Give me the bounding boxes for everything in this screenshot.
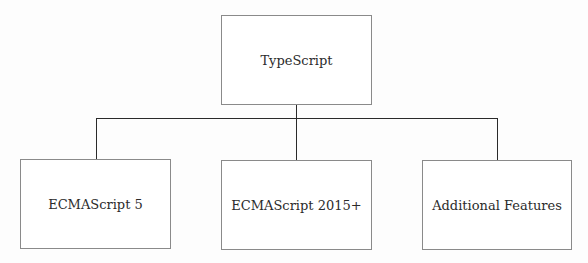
connector-root-down [296,105,297,119]
node-typescript: TypeScript [221,15,372,105]
connector-to-additional-features [497,118,498,160]
connector-to-ecmascript-5 [96,118,97,159]
node-typescript-label: TypeScript [260,53,332,68]
node-additional-features-label: Additional Features [432,198,562,213]
node-ecmascript-2015: ECMAScript 2015+ [221,160,372,250]
connector-horizontal-bar [96,118,498,119]
node-additional-features: Additional Features [422,160,572,250]
connector-to-ecmascript-2015 [296,118,297,160]
hierarchy-diagram: TypeScript ECMAScript 5 ECMAScript 2015+… [0,0,588,263]
node-ecmascript-5-label: ECMAScript 5 [48,197,143,212]
node-ecmascript-5: ECMAScript 5 [20,159,171,249]
node-ecmascript-2015-label: ECMAScript 2015+ [231,198,361,213]
